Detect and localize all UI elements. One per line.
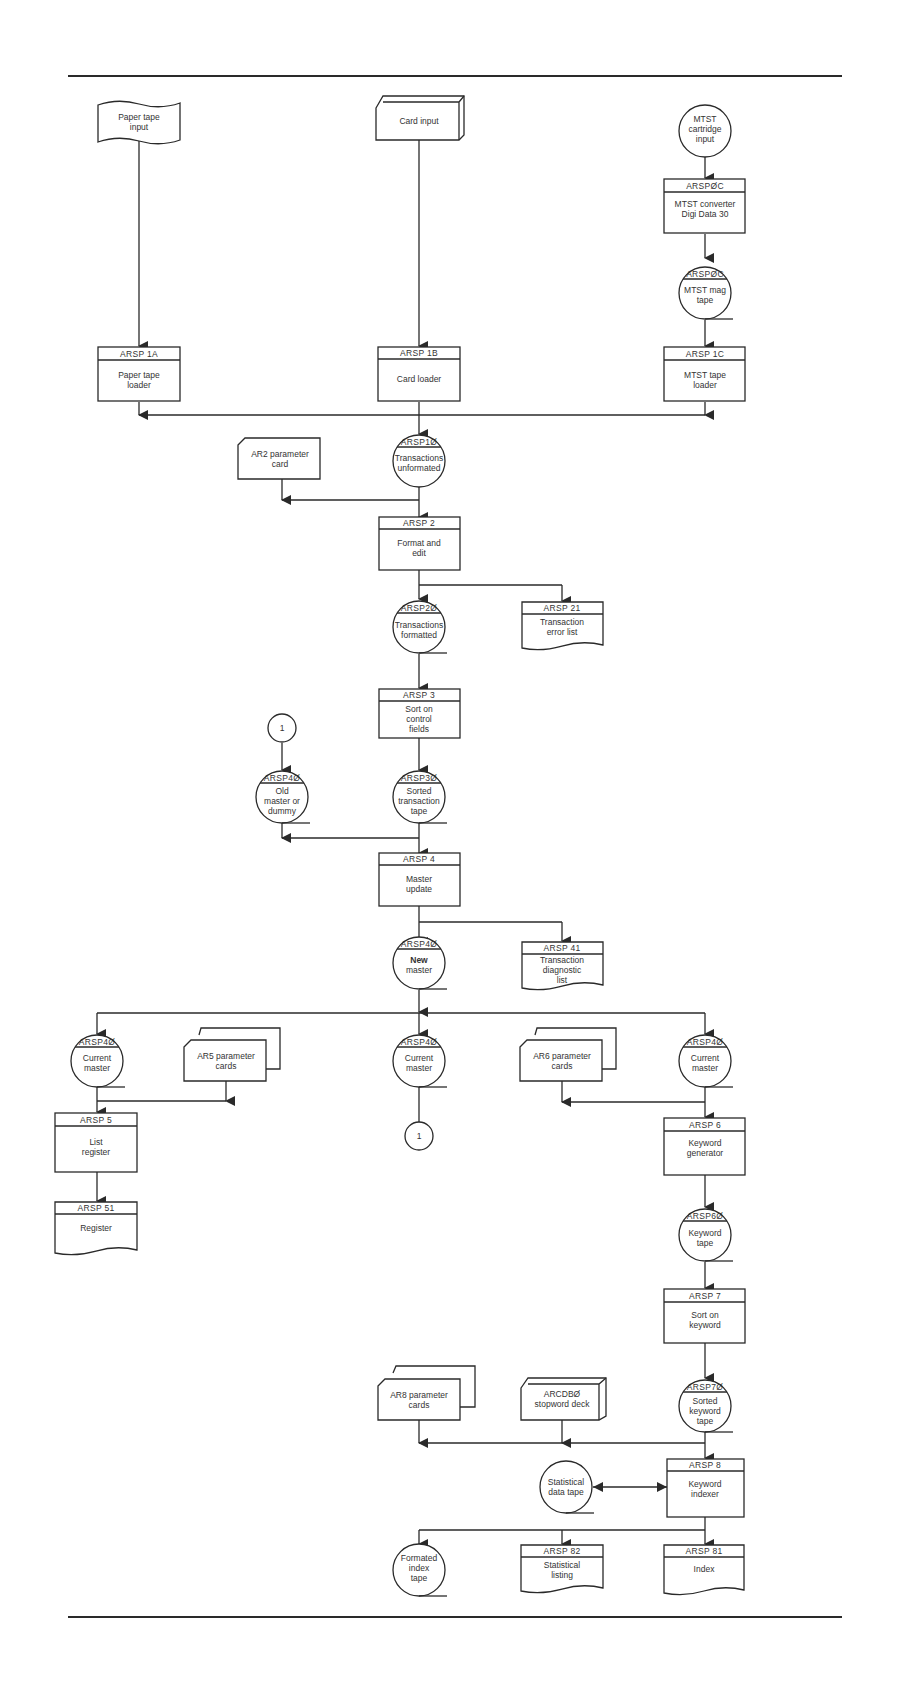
process-arsp6: ARSP 6 Keyword generator bbox=[664, 1118, 745, 1175]
svg-text:master: master bbox=[406, 965, 432, 975]
svg-text:1: 1 bbox=[280, 723, 285, 733]
svg-text:AR6 parameter: AR6 parameter bbox=[533, 1051, 591, 1061]
process-arsp1b: ARSP 1B Card loader bbox=[378, 347, 460, 401]
svg-text:AR2 parameter: AR2 parameter bbox=[251, 449, 309, 459]
process-arsp3: ARSP 3 Sort on control fields bbox=[379, 689, 460, 738]
svg-text:listing: listing bbox=[551, 1570, 573, 1580]
ar6-parameter-cards: AR6 parameter cards bbox=[520, 1028, 616, 1081]
svg-text:ARSP1Ø: ARSP1Ø bbox=[401, 437, 437, 447]
svg-text:ARSP2Ø: ARSP2Ø bbox=[401, 603, 437, 613]
svg-text:ARSP 82: ARSP 82 bbox=[544, 1546, 581, 1556]
svg-text:ARSP 1B: ARSP 1B bbox=[400, 348, 438, 358]
connector-1-top: 1 bbox=[268, 714, 296, 742]
svg-text:control: control bbox=[406, 714, 432, 724]
ar8-parameter-cards: AR8 parameter cards bbox=[378, 1366, 475, 1420]
svg-text:fields: fields bbox=[409, 724, 429, 734]
svg-text:cards: cards bbox=[552, 1061, 573, 1071]
svg-text:master: master bbox=[84, 1063, 110, 1073]
svg-text:Card input: Card input bbox=[399, 116, 439, 126]
tape-arsp40-current-master-right: ARSP4Ø Current master bbox=[679, 1035, 733, 1087]
card-input: Card input bbox=[376, 96, 464, 140]
document-arsp82: ARSP 82 Statistical listing bbox=[521, 1545, 603, 1593]
tape-arsp30: ARSP3Ø Sorted transaction tape bbox=[393, 771, 447, 823]
arcdb0-stopword-deck: ARCDBØ stopword deck bbox=[521, 1378, 606, 1420]
svg-text:cards: cards bbox=[409, 1400, 430, 1410]
svg-text:MTST mag: MTST mag bbox=[684, 285, 726, 295]
svg-text:ARSP 81: ARSP 81 bbox=[686, 1546, 723, 1556]
svg-text:diagnostic: diagnostic bbox=[543, 965, 582, 975]
tape-arsp20: ARSP2Ø Transactions formatted bbox=[393, 601, 447, 653]
svg-text:card: card bbox=[272, 459, 289, 469]
svg-text:Sort on: Sort on bbox=[405, 704, 433, 714]
mtst-cartridge-input: MTST cartridge input bbox=[679, 105, 731, 157]
svg-text:Paper tape: Paper tape bbox=[118, 112, 160, 122]
svg-text:Old: Old bbox=[275, 786, 289, 796]
svg-text:update: update bbox=[406, 884, 432, 894]
tape-arsp0c-mtst: ARSPØC MTST mag tape bbox=[679, 267, 733, 319]
svg-text:cards: cards bbox=[216, 1061, 237, 1071]
svg-text:AR8 parameter: AR8 parameter bbox=[390, 1390, 448, 1400]
svg-text:keyword: keyword bbox=[689, 1406, 721, 1416]
svg-text:ARSP 5: ARSP 5 bbox=[80, 1115, 112, 1125]
svg-text:edit: edit bbox=[412, 548, 426, 558]
tape-arsp10: ARSP1Ø Transactions unformated bbox=[393, 435, 445, 487]
svg-text:master: master bbox=[692, 1063, 718, 1073]
svg-text:Keyword: Keyword bbox=[688, 1479, 721, 1489]
svg-text:index: index bbox=[409, 1563, 430, 1573]
svg-text:Transactions: Transactions bbox=[395, 453, 443, 463]
svg-text:keyword: keyword bbox=[689, 1320, 721, 1330]
svg-text:indexer: indexer bbox=[691, 1489, 719, 1499]
svg-text:ARSPØC: ARSPØC bbox=[686, 269, 724, 279]
svg-text:loader: loader bbox=[127, 380, 151, 390]
svg-text:master or: master or bbox=[264, 796, 300, 806]
connector-1-bottom: 1 bbox=[405, 1122, 433, 1150]
svg-text:Sorted: Sorted bbox=[692, 1396, 717, 1406]
svg-text:tape: tape bbox=[411, 806, 428, 816]
svg-text:transaction: transaction bbox=[398, 796, 440, 806]
svg-text:dummy: dummy bbox=[268, 806, 297, 816]
svg-text:Current: Current bbox=[405, 1053, 434, 1063]
svg-text:input: input bbox=[130, 122, 149, 132]
svg-text:Register: Register bbox=[80, 1223, 112, 1233]
svg-text:ARSP4Ø: ARSP4Ø bbox=[401, 939, 437, 949]
document-arsp41: ARSP 41 Transaction diagnostic list bbox=[522, 942, 603, 990]
svg-text:list: list bbox=[557, 975, 568, 985]
svg-text:MTST tape: MTST tape bbox=[684, 370, 726, 380]
svg-text:Transaction: Transaction bbox=[540, 955, 584, 965]
svg-text:Card loader: Card loader bbox=[397, 374, 442, 384]
svg-text:ARSP 4: ARSP 4 bbox=[403, 854, 435, 864]
svg-text:ARSP7Ø: ARSP7Ø bbox=[687, 1382, 723, 1392]
process-arsp7: ARSP 7 Sort on keyword bbox=[664, 1289, 745, 1343]
svg-text:ARCDBØ: ARCDBØ bbox=[544, 1389, 581, 1399]
svg-text:Master: Master bbox=[406, 874, 432, 884]
svg-text:master: master bbox=[406, 1063, 432, 1073]
process-arsp1a: ARSP 1A Paper tape loader bbox=[98, 347, 180, 401]
svg-text:ARSP 1C: ARSP 1C bbox=[686, 349, 724, 359]
svg-text:ARSP 6: ARSP 6 bbox=[689, 1120, 721, 1130]
ar5-parameter-cards: AR5 parameter cards bbox=[184, 1028, 280, 1081]
svg-text:Sort on: Sort on bbox=[691, 1310, 719, 1320]
svg-text:Sorted: Sorted bbox=[406, 786, 431, 796]
svg-text:List: List bbox=[89, 1137, 103, 1147]
tape-arsp40-old-master: ARSP4Ø Old master or dummy bbox=[256, 771, 310, 823]
svg-text:ARSP4Ø: ARSP4Ø bbox=[687, 1037, 723, 1047]
tape-arsp40-current-master-left: ARSP4Ø Current master bbox=[71, 1035, 125, 1087]
svg-text:ARSP6Ø: ARSP6Ø bbox=[687, 1211, 723, 1221]
svg-text:data tape: data tape bbox=[548, 1487, 584, 1497]
paper-tape-input: Paper tape input bbox=[98, 101, 180, 144]
svg-text:1: 1 bbox=[417, 1131, 422, 1141]
svg-text:ARSP 2: ARSP 2 bbox=[403, 518, 435, 528]
svg-text:ARSP3Ø: ARSP3Ø bbox=[401, 773, 437, 783]
svg-text:ARSP 3: ARSP 3 bbox=[403, 690, 435, 700]
tape-arsp70: ARSP7Ø Sorted keyword tape bbox=[679, 1380, 733, 1432]
svg-text:Statistical: Statistical bbox=[548, 1477, 584, 1487]
process-arsp1c: ARSP 1C MTST tape loader bbox=[664, 347, 745, 401]
process-arsp4: ARSP 4 Master update bbox=[379, 853, 460, 906]
svg-text:ARSP 1A: ARSP 1A bbox=[120, 349, 158, 359]
svg-text:generator: generator bbox=[687, 1148, 724, 1158]
svg-text:Digi Data 30: Digi Data 30 bbox=[682, 209, 729, 219]
svg-text:ARSP 41: ARSP 41 bbox=[544, 943, 581, 953]
svg-text:formatted: formatted bbox=[401, 630, 437, 640]
svg-text:tape: tape bbox=[697, 295, 714, 305]
svg-text:input: input bbox=[696, 134, 715, 144]
